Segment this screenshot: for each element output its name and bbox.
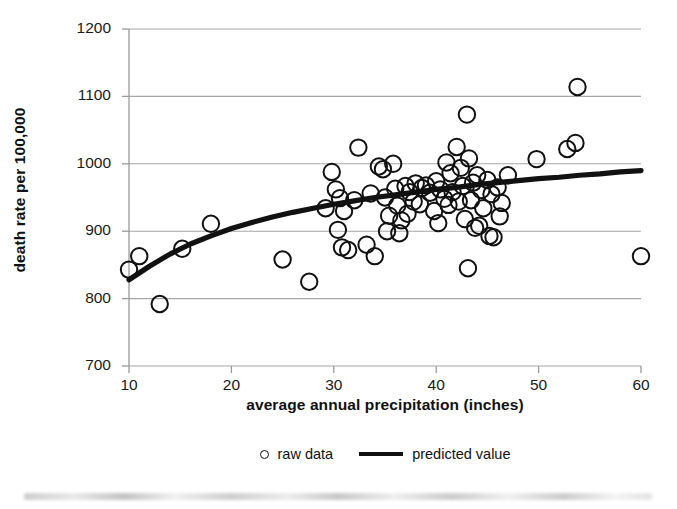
legend-item-predicted-value: predicted value [359,446,510,462]
x-axis-title: average annual precipitation (inches) [246,396,524,413]
x-tick-label: 40 [416,376,456,394]
x-tick-label: 50 [519,376,559,394]
legend-label-predicted-value: predicted value [412,446,510,462]
artifact-text-line [24,493,652,500]
y-tick-label: 700 [51,356,111,374]
chart-legend: raw data predicted value [129,446,641,462]
circle-marker-icon [260,450,269,459]
y-tick-label: 1200 [51,19,111,37]
axis-tick-marks [122,29,641,373]
x-tick-label: 20 [211,376,251,394]
line-marker-icon [359,452,403,456]
x-tick-label: 60 [621,376,661,394]
x-axis-title-container: average annual precipitation (inches) [129,396,641,414]
page-artifact-strip [0,486,677,509]
x-tick-label: 30 [314,376,354,394]
y-tick-label: 1000 [51,154,111,172]
y-tick-label: 800 [51,289,111,307]
y-tick-label: 900 [51,221,111,239]
plot-area [0,0,677,400]
x-tick-label: 10 [109,376,149,394]
legend-label-raw-data: raw data [278,446,334,462]
scatter-chart: death rate per 100,000 70080090010001100… [0,0,677,509]
predicted-value-line [129,171,641,280]
legend-item-raw-data: raw data [260,446,334,462]
y-tick-label: 1100 [51,86,111,104]
